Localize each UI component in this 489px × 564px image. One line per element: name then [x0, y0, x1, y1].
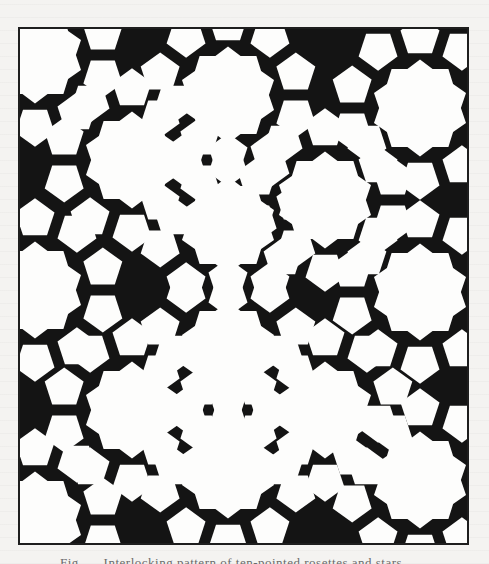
pentagon-tile [468, 486, 469, 523]
pentagon-tile [468, 114, 469, 151]
tiling-figure [18, 27, 469, 545]
figure-caption: Fig. — Interlocking pattern of ten-point… [60, 553, 460, 564]
pentagon-tile [468, 298, 469, 335]
pentagon-tile [468, 66, 469, 103]
pentagon-tile [468, 438, 469, 475]
pentagon-tile [468, 250, 469, 287]
geometric-pattern [18, 27, 469, 545]
